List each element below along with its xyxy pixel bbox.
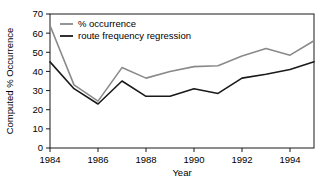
x-tick-label: 1984: [39, 154, 60, 165]
x-axis-title: Year: [172, 167, 191, 178]
x-tick-label: 1990: [183, 154, 204, 165]
y-tick-label: 70: [32, 8, 43, 19]
line-chart: 010203040506070 198419861988199019921994…: [0, 0, 328, 180]
x-tick-label: 1994: [279, 154, 300, 165]
x-axis-ticks: 198419861988199019921994: [39, 148, 300, 165]
y-tick-label: 60: [32, 28, 43, 39]
x-tick-label: 1992: [231, 154, 252, 165]
x-tick-label: 1988: [135, 154, 156, 165]
chart-figure: 010203040506070 198419861988199019921994…: [0, 0, 328, 180]
y-tick-label: 30: [32, 85, 43, 96]
y-tick-label: 20: [32, 104, 43, 115]
y-tick-label: 0: [38, 142, 43, 153]
legend-label-1: % occurrence: [78, 18, 136, 29]
legend-label-2: route frequency regression: [78, 30, 191, 41]
y-tick-label: 10: [32, 123, 43, 134]
y-axis-ticks: 010203040506070: [32, 8, 50, 153]
y-tick-label: 50: [32, 47, 43, 58]
y-axis-title: Computed % Occurrence: [4, 28, 15, 135]
y-tick-label: 40: [32, 66, 43, 77]
x-tick-label: 1986: [87, 154, 108, 165]
